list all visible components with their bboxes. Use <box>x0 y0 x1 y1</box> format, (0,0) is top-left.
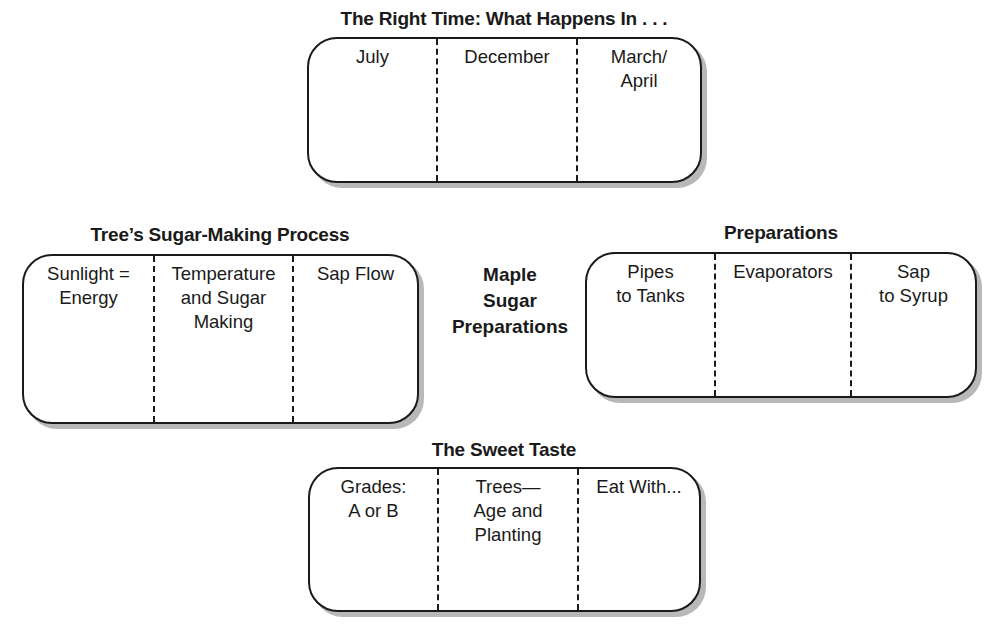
top-column-3: March/ April <box>576 39 700 181</box>
left-section-box: Sunlight = Energy Temperature and Sugar … <box>22 254 419 424</box>
right-column-1: Pipes to Tanks <box>587 254 714 396</box>
right-column-3: Sap to Syrup <box>850 254 975 396</box>
bottom-section-box: Grades: A or B Trees— Age and Planting E… <box>308 467 701 612</box>
right-section-box: Pipes to Tanks Evaporators Sap to Syrup <box>585 252 977 398</box>
left-column-1: Sunlight = Energy <box>24 256 153 422</box>
bottom-column-2: Trees— Age and Planting <box>437 469 577 610</box>
bottom-section-title: The Sweet Taste <box>308 439 700 461</box>
bottom-column-1: Grades: A or B <box>310 469 437 610</box>
top-section-title: The Right Time: What Happens In . . . <box>307 8 701 30</box>
center-topic-label: Maple Sugar Preparations <box>440 262 580 340</box>
left-column-2: Temperature and Sugar Making <box>153 256 292 422</box>
bottom-column-3: Eat With... <box>577 469 699 610</box>
left-column-3: Sap Flow <box>292 256 417 422</box>
top-column-2: December <box>436 39 576 181</box>
top-column-1: July <box>309 39 436 181</box>
left-section-title: Tree’s Sugar-Making Process <box>22 224 418 246</box>
right-column-2: Evaporators <box>714 254 850 396</box>
top-section-box: July December March/ April <box>307 37 702 183</box>
right-section-title: Preparations <box>585 222 977 244</box>
